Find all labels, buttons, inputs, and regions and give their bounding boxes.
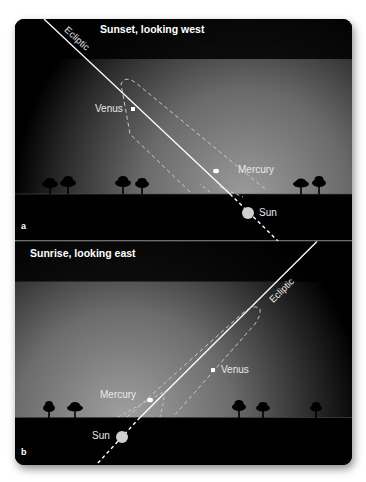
- figure: Sunset, looking west Ecliptic Venus Merc…: [15, 19, 352, 465]
- panel-letter-b: b: [21, 447, 27, 457]
- sun-label-b: Sun: [92, 430, 110, 441]
- venus-dot-a: [131, 107, 135, 111]
- sun-icon-a: [242, 207, 254, 219]
- sun-label-a: Sun: [259, 207, 277, 218]
- sun-icon-b: [116, 431, 128, 443]
- mercury-dot-b: [147, 398, 153, 403]
- ground-b: [15, 418, 352, 466]
- panel-b: [15, 242, 352, 466]
- mercury-dot-a: [213, 169, 219, 174]
- venus-label-b: Venus: [221, 364, 249, 375]
- diagram-canvas: [15, 19, 352, 465]
- panel-b-title: Sunrise, looking east: [30, 247, 136, 259]
- panel-a: [15, 19, 352, 241]
- venus-label-a: Venus: [95, 103, 123, 114]
- ground-a: [15, 194, 352, 241]
- mercury-label-b: Mercury: [100, 389, 136, 400]
- panel-a-title: Sunset, looking west: [100, 23, 204, 35]
- panel-letter-a: a: [21, 221, 26, 231]
- mercury-label-a: Mercury: [238, 164, 274, 175]
- venus-dot-b: [211, 368, 215, 372]
